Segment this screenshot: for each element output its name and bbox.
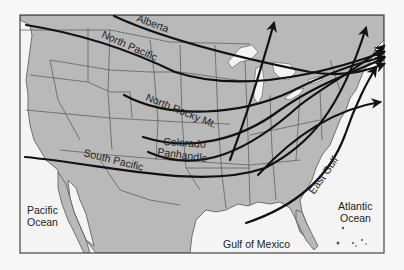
label-atlantic-ocean-2: Ocean xyxy=(340,212,371,224)
label-atlantic-ocean-1: Atlantic xyxy=(338,200,372,212)
storm-track-map: Alberta North Pacific North Rocky Mt. Co… xyxy=(0,0,404,270)
label-pacific-ocean-1: Pacific xyxy=(27,204,58,216)
label-gulf-of-mexico: Gulf of Mexico xyxy=(223,238,290,250)
label-pacific-ocean-2: Ocean xyxy=(27,216,58,228)
